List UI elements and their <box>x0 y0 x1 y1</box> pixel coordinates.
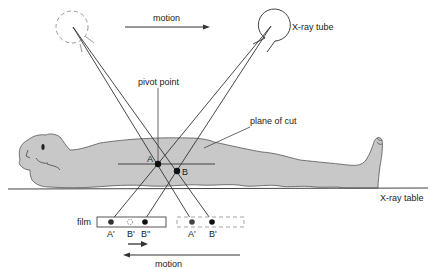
film-label-b-double-prime: B'' <box>141 229 151 239</box>
film-dot-b-prime-hollow <box>127 219 132 224</box>
point-b <box>174 168 180 174</box>
xray-tube-start-position <box>56 11 94 52</box>
xray-table-line <box>8 188 428 189</box>
film-dot-b-double-prime <box>142 219 148 225</box>
tomography-diagram: X-ray table X-ray tube motion pivot poin… <box>0 0 431 270</box>
point-a <box>155 161 161 167</box>
film-ghost-label-b-prime: B' <box>209 229 217 239</box>
patient-body <box>19 134 382 188</box>
xray-table-label: X-ray table <box>380 193 424 203</box>
displacement-arrow <box>128 241 148 247</box>
motion-arrow-top <box>125 25 210 30</box>
xray-tube-label: X-ray tube <box>292 22 334 32</box>
motion-arrow-bottom <box>123 253 240 258</box>
film-dot-a-prime <box>108 219 114 225</box>
film-ghost-dot-b-prime <box>209 219 215 225</box>
point-a-label: A <box>147 154 153 164</box>
film-label-a-prime: A' <box>107 229 115 239</box>
pivot-point-label: pivot point <box>138 77 180 87</box>
film-label: film <box>77 217 91 227</box>
film-label-b-prime: B' <box>127 229 135 239</box>
motion-label-bottom: motion <box>155 259 182 269</box>
face-eye <box>41 144 44 150</box>
plane-of-cut-label: plane of cut <box>250 116 297 126</box>
motion-label-top: motion <box>153 13 180 23</box>
film-ghost-label-a-prime: A' <box>188 229 196 239</box>
point-b-label: B <box>182 167 188 177</box>
film-ghost-dot-a-prime <box>189 219 195 225</box>
